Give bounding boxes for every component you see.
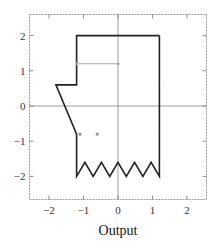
y-tick-label: 0	[20, 100, 26, 112]
x-tick-label: 2	[184, 204, 190, 216]
x-tick-label: −1	[78, 204, 90, 216]
y-tick-label: 1	[20, 65, 26, 77]
x-tick-label: 1	[150, 204, 156, 216]
zero-axes	[30, 15, 207, 200]
chart: −2−1012−2−1012 Output	[0, 0, 216, 242]
mouth-line-marker	[75, 62, 78, 65]
y-tick-label: −2	[14, 170, 26, 182]
mouth-line-marker	[116, 62, 119, 65]
eyes-point	[96, 133, 99, 136]
x-tick-label: −2	[43, 204, 55, 216]
y-tick-label: 2	[20, 30, 26, 42]
x-axis-label: Output	[99, 223, 138, 238]
ticks: −2−1012−2−1012	[14, 15, 207, 216]
y-tick-label: −1	[14, 135, 26, 147]
x-tick-label: 0	[115, 204, 121, 216]
eyes-point	[78, 133, 81, 136]
